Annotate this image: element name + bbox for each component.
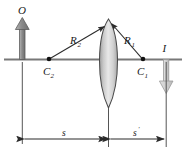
image-distance-label-base: s <box>133 128 137 138</box>
center-c2-label: C 2 <box>43 65 55 80</box>
center-c1-label-sub: 1 <box>145 72 149 80</box>
center-c1-label: C 1 <box>137 65 148 80</box>
image-distance-prime: ′ <box>138 125 140 133</box>
radius-r2-label-sub: 2 <box>78 41 82 49</box>
center-c1-dot <box>141 57 146 62</box>
radius-r1-label: R 1 <box>123 34 135 49</box>
radius-r1-label-base: R <box>123 34 131 46</box>
object-label: O <box>18 4 26 16</box>
image-label: I <box>162 42 168 54</box>
radius-r1-label-sub: 1 <box>132 41 136 49</box>
figure-canvas: O I R 2 R 1 C 2 C 1 s s ′ <box>0 0 185 163</box>
radius-r2-label-base: R <box>69 34 77 46</box>
optics-diagram-svg: O I R 2 R 1 C 2 C 1 s s ′ <box>0 0 185 163</box>
center-c2-dot <box>47 57 52 62</box>
object-arrow <box>15 18 29 60</box>
center-c2-label-sub: 2 <box>51 72 55 80</box>
object-distance-label: s <box>62 128 66 138</box>
biconvex-lens <box>99 19 117 108</box>
image-distance-label: s ′ <box>133 125 140 138</box>
